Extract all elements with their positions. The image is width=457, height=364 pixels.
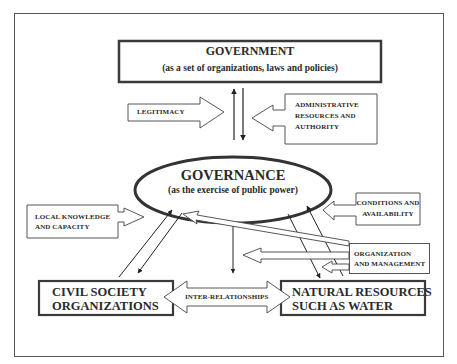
government-subtitle: (as a set of organizations, laws and pol… <box>119 63 381 74</box>
natural-resources-label-2: SUCH AS WATER <box>292 299 393 313</box>
local-knowledge-label-1: LOCAL KNOWLEDGE <box>35 213 110 221</box>
civil-society-label-2: ORGANIZATIONS <box>52 299 159 313</box>
conditions-label-1: CONDITIONS AND <box>353 199 423 207</box>
natural-resources-label-1: NATURAL RESOURCES <box>292 285 432 299</box>
governance-subtitle: (as the exercise of public power) <box>135 185 331 196</box>
administrative-label-1: ADMINISTRATIVE <box>295 101 359 109</box>
civil-society-label-1: CIVIL SOCIETY <box>52 285 147 299</box>
arrow-governance-to-natural <box>288 214 320 278</box>
arrow-governance-to-civil <box>138 213 182 273</box>
conditions-arrow <box>323 193 420 225</box>
organization-label-2: AND MANAGEMENT <box>354 260 425 268</box>
legitimacy-label: LEGITIMACY <box>137 108 185 116</box>
administrative-label-2: RESOURCES AND <box>295 112 356 120</box>
organization-left-arrow <box>243 248 349 263</box>
governance-title: GOVERNANCE <box>135 167 331 184</box>
government-title: GOVERNMENT <box>119 45 381 59</box>
administrative-label-3: AUTHORITY <box>295 123 339 131</box>
conditions-label-2: AVAILABILITY <box>353 210 423 218</box>
organization-small-arrow <box>322 261 349 273</box>
local-knowledge-label-2: AND CAPACITY <box>35 223 90 231</box>
organization-box <box>350 244 430 274</box>
organization-label-1: ORGANIZATION <box>354 250 411 258</box>
inter-relationships-label: INTER-RELATIONSHIPS <box>185 293 268 301</box>
local-knowledge-arrow <box>27 205 144 238</box>
